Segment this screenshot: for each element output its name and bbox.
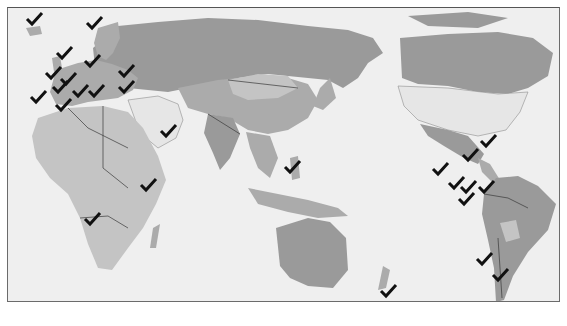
world-map-frame: IcelandNorwayUnited KingdomSweden/Baltic… [7,7,560,302]
checkmark-icon: Chile [477,253,492,264]
indonesia [248,188,348,218]
madagascar [150,224,160,248]
world-map: IcelandNorwayUnited KingdomSweden/Baltic… [8,8,560,302]
checkmark-icon: Ecuador [459,193,474,204]
checkmark-icon: Guatemala [433,163,448,174]
checkmark-icon: Iceland [27,13,42,24]
checkmark-icon: Portugal [31,91,46,102]
australia [276,218,348,288]
iceland [26,26,42,36]
usa [398,86,528,136]
south-america [482,176,556,302]
checkmark-icon: United Kingdom [57,47,72,58]
checkmark-icon: Norway [87,17,102,28]
canada [400,32,553,94]
new-zealand [378,266,390,290]
southeast-asia [246,132,278,178]
checkmark-icon: Cuba [481,135,496,146]
japan [313,78,336,110]
arctic-islands [408,12,508,28]
checkmark-icon: Panama [461,181,476,192]
